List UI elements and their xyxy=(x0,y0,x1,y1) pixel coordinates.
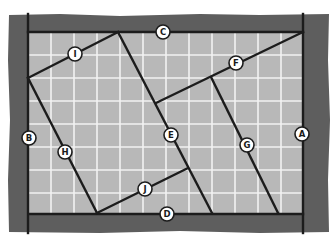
svg-text:G: G xyxy=(244,140,251,150)
label-h: H xyxy=(58,145,72,159)
grid-diagram: A B C D E F G H I J xyxy=(0,0,336,243)
label-a: A xyxy=(295,127,309,141)
label-e: E xyxy=(164,128,178,142)
svg-text:E: E xyxy=(168,130,174,140)
label-d: D xyxy=(160,207,174,221)
svg-text:J: J xyxy=(142,184,146,194)
svg-text:A: A xyxy=(299,129,306,139)
label-i: I xyxy=(68,47,82,61)
label-f: F xyxy=(229,56,243,70)
svg-text:C: C xyxy=(160,27,166,37)
svg-text:H: H xyxy=(61,147,68,157)
label-b: B xyxy=(22,131,36,145)
svg-text:D: D xyxy=(163,209,170,219)
label-j: J xyxy=(138,182,152,196)
svg-text:I: I xyxy=(73,49,76,59)
label-g: G xyxy=(240,138,254,152)
svg-text:B: B xyxy=(26,133,32,143)
label-c: C xyxy=(156,25,170,39)
svg-text:F: F xyxy=(233,58,239,68)
